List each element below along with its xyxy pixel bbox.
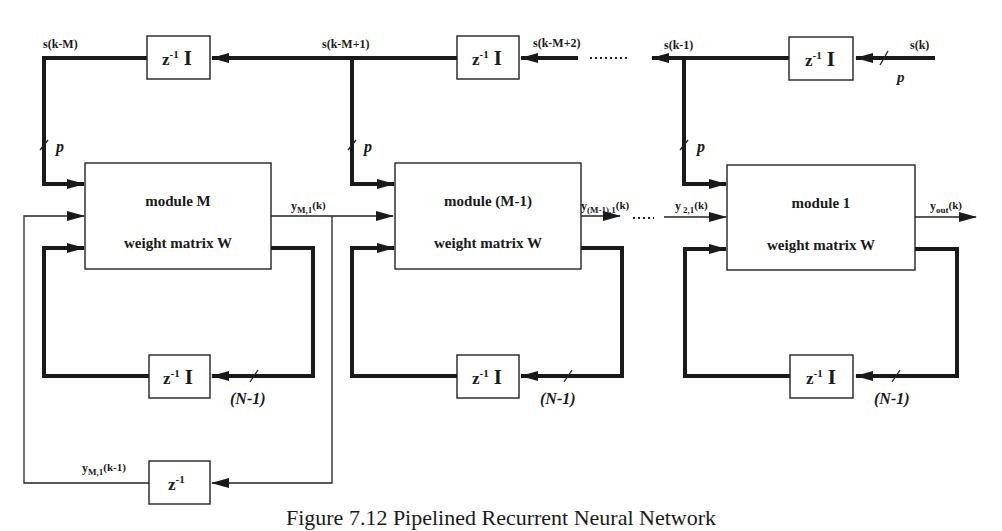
label-s-k-M: s(k-M) xyxy=(43,37,78,51)
label-y-M1-prev: yM,1(k-1) xyxy=(82,461,126,477)
delay-box-bottom: z-1 xyxy=(149,461,210,504)
module-1-box: module 1 weight matrix W xyxy=(727,165,915,270)
figure-caption: Figure 7.12 Pipelined Recurrent Neural N… xyxy=(0,505,1002,531)
label-s-k-M-2: s(k-M+2) xyxy=(533,36,581,50)
label-p-module-M-1: p xyxy=(362,138,372,156)
delay-box-top-3: z-1I xyxy=(789,37,853,80)
label-y-out: yout(k) xyxy=(930,199,962,215)
branch-s-k-1 xyxy=(684,58,726,184)
label-s-k-M-1: s(k-M+1) xyxy=(322,37,370,51)
label-n-1-module-M-1: (N-1) xyxy=(540,390,576,408)
svg-text:module 1: module 1 xyxy=(792,195,851,211)
delay-box-top-1: z-1I xyxy=(147,36,210,79)
module-M-box: module M weight matrix W xyxy=(85,163,271,269)
label-p-input: p xyxy=(895,69,905,85)
svg-text:module (M-1): module (M-1) xyxy=(444,193,532,210)
label-y-M1: yM,1(k) xyxy=(291,199,326,215)
label-p-module-1: p xyxy=(695,138,705,156)
label-y-M-1-1: y(M-1),1(k) xyxy=(581,199,630,215)
label-s-k-1: s(k-1) xyxy=(664,38,693,52)
svg-text:weight matrix W: weight matrix W xyxy=(124,235,232,251)
label-p-module-M: p xyxy=(54,138,64,156)
delay-box-feedback-M: z-1I xyxy=(149,355,210,398)
label-y-2-1: y2,1(k) xyxy=(675,199,708,215)
delay-box-feedback-M-1: z-1I xyxy=(457,355,519,398)
label-n-1-module-1: (N-1) xyxy=(874,390,910,408)
svg-text:weight matrix W: weight matrix W xyxy=(434,235,542,251)
module-M-1-box: module (M-1) weight matrix W xyxy=(395,163,581,269)
delay-box-feedback-1: z-1I xyxy=(790,355,853,398)
svg-text:weight matrix W: weight matrix W xyxy=(767,237,875,253)
label-n-1-module-M: (N-1) xyxy=(230,390,266,408)
delay-box-top-2: z-1I xyxy=(457,36,519,79)
branch-s-k-M-1 xyxy=(352,58,394,184)
label-s-k: s(k) xyxy=(910,38,929,52)
svg-text:module M: module M xyxy=(145,193,210,209)
